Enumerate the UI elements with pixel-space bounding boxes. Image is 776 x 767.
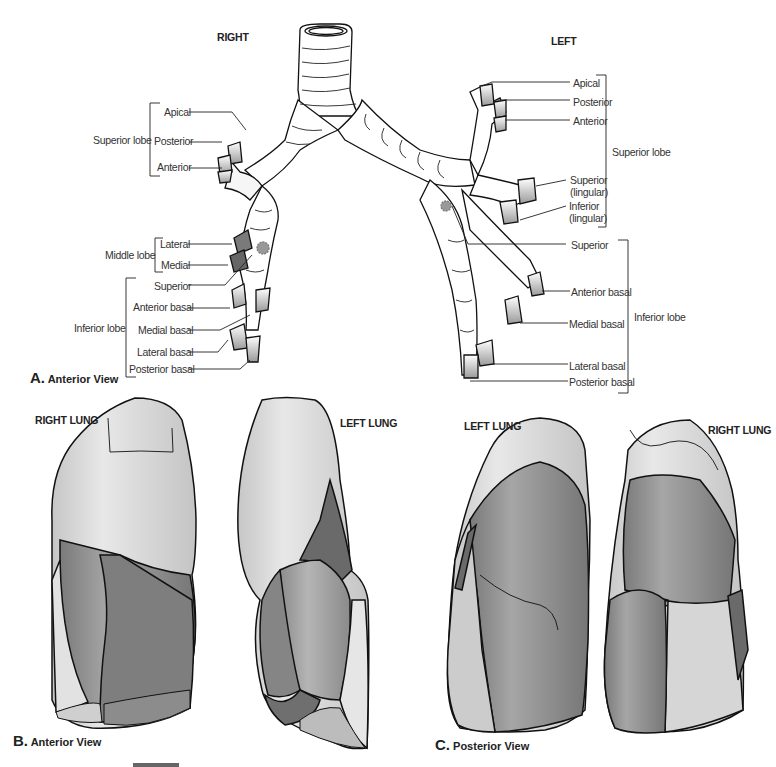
segment-left-apical: Apical (573, 77, 600, 89)
segment-left-posterior: Posterior (573, 96, 612, 108)
lobe-label-right-superior: Superior lobe (93, 134, 152, 146)
caption-panel-c: C. Posterior View (435, 736, 529, 753)
caption-panel-b-letter: B. (13, 732, 28, 749)
segment-left-superior-lingular-line2: (lingular) (570, 186, 608, 198)
segment-left-inferior-lingular-line1: Inferior (569, 200, 599, 212)
segment-left-lateral-basal: Lateral basal (569, 360, 625, 372)
lobe-label-right-middle: Middle lobe (105, 249, 155, 261)
segment-left-superior-lingular-line1: Superior (570, 174, 607, 186)
posterior-left-lung (447, 418, 590, 732)
side-label-right: RIGHT (217, 31, 249, 43)
caption-panel-c-text: Posterior View (453, 740, 529, 752)
segment-right-anterior: Anterior (157, 161, 191, 173)
segment-right-medial: Medial (161, 259, 190, 271)
caption-panel-b: B. Anterior View (13, 732, 101, 749)
segment-right-apical: Apical (164, 106, 191, 118)
segment-left-medial-basal: Medial basal (569, 318, 624, 330)
side-label-left: LEFT (551, 35, 576, 47)
segment-left-superior-lingular: Superior (lingular) (570, 174, 608, 198)
segment-right-posterior: Posterior (154, 135, 193, 147)
lobe-label-right-inferior: Inferior lobe (74, 322, 126, 334)
segment-left-inferior-lingular-line2: (lingular) (569, 212, 607, 224)
lobe-label-left-inferior: Inferior lobe (634, 311, 686, 323)
anterior-right-lung (52, 398, 196, 728)
caption-panel-a-letter: A. (30, 369, 45, 386)
lobe-label-left-superior: Superior lobe (612, 146, 671, 158)
label-b-right-lung: RIGHT LUNG (35, 414, 98, 426)
bronchial-tree (218, 24, 544, 378)
segment-right-posterior-basal: Posterior basal (129, 363, 195, 375)
segment-right-superior: Superior (154, 280, 191, 292)
anterior-left-lung (238, 398, 369, 749)
label-c-left-lung: LEFT LUNG (464, 420, 521, 432)
segment-left-inferior-lingular: Inferior (lingular) (569, 200, 607, 224)
caption-panel-c-letter: C. (435, 736, 450, 753)
caption-panel-b-text: Anterior View (31, 736, 102, 748)
caption-panel-a: A. Anterior View (30, 369, 118, 386)
posterior-right-lung (604, 420, 748, 733)
label-b-left-lung: LEFT LUNG (340, 417, 397, 429)
label-c-right-lung: RIGHT LUNG (708, 424, 771, 436)
scale-bar (133, 763, 179, 767)
segment-left-posterior-basal: Posterior basal (569, 376, 635, 388)
segment-right-medial-basal: Medial basal (138, 324, 193, 336)
segment-right-lateral: Lateral (160, 238, 190, 250)
segment-right-anterior-basal: Anterior basal (133, 301, 194, 313)
segment-left-anterior-basal: Anterior basal (571, 286, 632, 298)
segment-left-superior: Superior (571, 239, 608, 251)
segment-right-lateral-basal: Lateral basal (137, 346, 193, 358)
caption-panel-a-text: Anterior View (48, 373, 119, 385)
segment-left-anterior: Anterior (573, 115, 607, 127)
